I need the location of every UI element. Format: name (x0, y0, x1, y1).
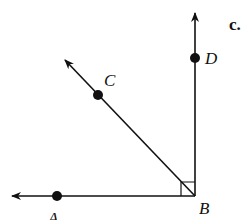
label-b: B (199, 199, 210, 218)
angle-diagram: A C D B c. (0, 0, 245, 220)
label-c: C (104, 71, 116, 90)
label-a: A (47, 209, 59, 220)
point-c (93, 90, 103, 100)
label-d: D (204, 49, 218, 68)
point-a (52, 191, 62, 201)
point-d (190, 53, 200, 63)
part-label: c. (229, 15, 241, 34)
ray-bc (65, 60, 195, 196)
